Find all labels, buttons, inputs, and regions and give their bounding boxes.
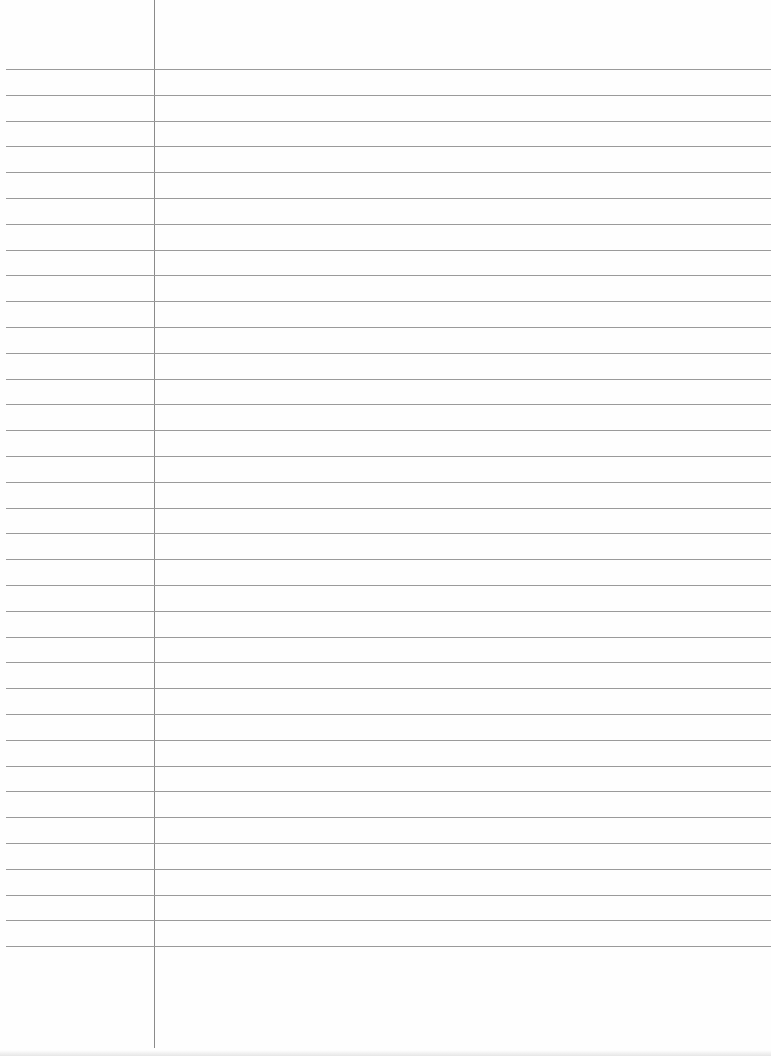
ruled-line [6, 172, 771, 173]
margin-line [154, 0, 155, 1048]
ruled-line [6, 482, 771, 483]
ruled-line [6, 920, 771, 921]
ruled-line [6, 456, 771, 457]
ruled-line [6, 740, 771, 741]
ruled-line [6, 404, 771, 405]
ruled-line [6, 146, 771, 147]
ruled-line [6, 585, 771, 586]
ruled-line [6, 69, 771, 70]
ruled-line [6, 946, 771, 947]
ruled-line [6, 301, 771, 302]
page-bottom-edge [0, 1050, 771, 1056]
ruled-line [6, 224, 771, 225]
ruled-line [6, 327, 771, 328]
ruled-line [6, 121, 771, 122]
ruled-line [6, 275, 771, 276]
ruled-line [6, 766, 771, 767]
ruled-line [6, 379, 771, 380]
ruled-line [6, 95, 771, 96]
ruled-line [6, 508, 771, 509]
ruled-line [6, 250, 771, 251]
ruled-line [6, 353, 771, 354]
ruled-line [6, 559, 771, 560]
ruled-line [6, 611, 771, 612]
ruled-line [6, 688, 771, 689]
lined-paper-page [0, 0, 771, 1056]
ruled-line [6, 895, 771, 896]
ruled-line [6, 869, 771, 870]
ruled-line [6, 637, 771, 638]
ruled-line [6, 662, 771, 663]
ruled-line [6, 430, 771, 431]
ruled-line [6, 843, 771, 844]
ruled-line [6, 791, 771, 792]
ruled-line [6, 714, 771, 715]
ruled-line [6, 198, 771, 199]
ruled-line [6, 817, 771, 818]
ruled-line [6, 533, 771, 534]
